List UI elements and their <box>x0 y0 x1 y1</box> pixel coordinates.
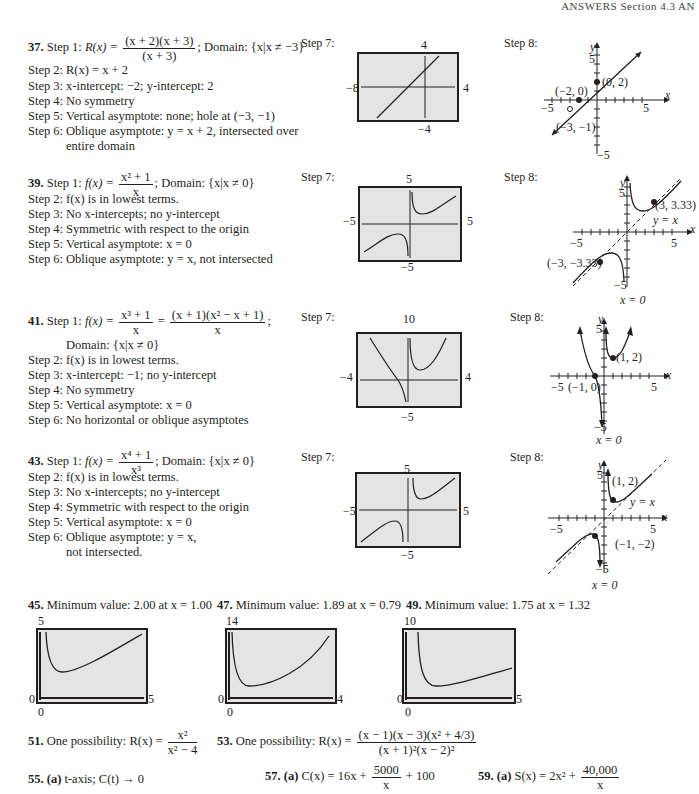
step-line: Step 6:Oblique asymptote: y = x, not int… <box>28 252 273 267</box>
fraction: (x + 2)(x + 3)(x + 3) <box>123 34 195 63</box>
step-line: Step 5:Vertical asymptote: x = 0 <box>28 515 192 530</box>
window-ymax: 5 <box>406 172 412 187</box>
equation-lhs: f(x) = <box>85 176 114 190</box>
window-xmin: 0 <box>218 692 224 707</box>
calculator-graph <box>357 52 459 122</box>
calculator-graph <box>36 628 148 704</box>
step-line: Step 4:No symmetry <box>28 383 134 398</box>
problem-number: 37. <box>28 40 44 54</box>
step-line: Step 2:f(x) is in lowest terms. <box>28 353 179 368</box>
y-tick-label: −5 <box>597 148 610 163</box>
window-ymax: 14 <box>226 614 238 629</box>
step-label: Step 1: <box>47 176 82 190</box>
asymptote-label: x = 0 <box>596 433 621 448</box>
fraction: x³ + 1x <box>119 308 153 337</box>
graph-plot <box>227 630 335 702</box>
window-ymin: 0 <box>227 705 233 720</box>
domain-text: ; Domain: {x|x ≠ −3} <box>197 40 304 54</box>
window-ymin: −5 <box>401 260 414 275</box>
y-tick-label: 5 <box>596 322 602 337</box>
graph-plot <box>404 630 514 702</box>
step-line: Step 4:Symmetric with respect to the ori… <box>28 222 249 237</box>
step-line: Step 6:Oblique asymptote: y = x, <box>28 530 196 545</box>
window-xmax: 5 <box>516 692 522 707</box>
point-label: (1, 2) <box>616 350 642 365</box>
window-ymax: 4 <box>421 38 427 53</box>
step-line: Step 4:No symmetry <box>28 94 134 109</box>
point-label: (−3, −3.33) <box>547 256 602 271</box>
asymptote-label: x = 0 <box>620 293 645 308</box>
x-tick-label: −5 <box>550 522 563 537</box>
step-line: not intersected. <box>66 545 142 560</box>
x-tick-label: 5 <box>671 236 677 251</box>
x-axis-label: x <box>666 368 671 383</box>
equation-lhs: R(x) = <box>85 40 118 54</box>
window-xmin: −5 <box>343 214 356 229</box>
window-ymin: −5 <box>401 410 414 425</box>
fraction: (x − 1)(x − 3)(x² + 4/3)(x + 1)²(x − 2)² <box>357 728 477 757</box>
problem-59: 59. (a) S(x) = 2x² + 40,000x <box>478 763 621 792</box>
x-tick-label: 5 <box>650 522 656 537</box>
x-tick-label: 5 <box>651 380 657 395</box>
fraction-factored: (x + 1)(x² − x + 1)x <box>170 308 266 337</box>
problem-number: 43. <box>28 454 44 468</box>
step7-label: Step 7: <box>301 36 335 51</box>
x-axis-label: x <box>662 510 667 525</box>
problem-47: 47. Minimum value: 1.89 at x = 0.79 <box>217 598 401 613</box>
x-tick-label: −5 <box>570 236 583 251</box>
sketch-graph-37 <box>540 42 670 162</box>
window-xmax: 5 <box>148 692 154 707</box>
problem-57: 57. (a) C(x) = 16x + 5000x + 100 <box>265 763 435 792</box>
window-xmax: 5 <box>467 214 473 229</box>
step-line: Step 6:No horizontal or oblique asymptot… <box>28 413 249 428</box>
step-line: Step 5:Vertical asymptote: x = 0 <box>28 398 192 413</box>
problem-51: 51. One possibility: R(x) = x²x² − 4 <box>28 728 199 757</box>
x-tick-label: −5 <box>541 101 554 116</box>
window-ymin: −5 <box>401 548 414 563</box>
calculator-graph <box>356 332 462 408</box>
window-xmin: −5 <box>343 504 356 519</box>
y-tick-label: 5 <box>597 468 603 483</box>
point-label: (−2, 0) <box>555 84 588 99</box>
problem-55: 55. (a) t-axis; C(t) → 0 <box>28 772 144 787</box>
window-xmax: 4 <box>463 81 469 96</box>
step8-label: Step 8: <box>504 170 538 185</box>
window-xmax: 5 <box>463 504 469 519</box>
point-label: (−1, −2) <box>615 537 655 552</box>
domain-text: ; Domain: {x|x ≠ 0} <box>155 176 255 190</box>
window-ymin: 0 <box>38 705 44 720</box>
problem-49: 49. Minimum value: 1.75 at x = 1.32 <box>406 598 590 613</box>
running-header: ANSWERS Section 4.3 AN <box>561 0 695 12</box>
y-tick-label: −5 <box>596 562 609 577</box>
window-ymax: 5 <box>38 614 44 629</box>
problem-53: 53. One possibility: R(x) = (x − 1)(x − … <box>217 728 478 757</box>
step-line: Step 2:f(x) is in lowest terms. <box>28 470 179 485</box>
step7-label: Step 7: <box>301 170 335 185</box>
step-line: Step 5:Vertical asymptote: x = 0 <box>28 237 192 252</box>
window-ymin: 0 <box>405 705 411 720</box>
asymptote-label: x = 0 <box>592 578 617 593</box>
step-label: Step 1: <box>47 40 82 54</box>
window-ymin: −4 <box>418 122 431 137</box>
x-tick-label: 5 <box>643 101 649 116</box>
problem-number: 39. <box>28 176 44 190</box>
point-label: (−3, −1) <box>556 120 596 135</box>
step-line: Step 4:Symmetric with respect to the ori… <box>28 500 249 515</box>
step-line: Step 3:No x-intercepts; no y-intercept <box>28 485 220 500</box>
calculator-graph <box>402 628 516 704</box>
step8-label: Step 8: <box>504 36 538 51</box>
step-line: Step 3:x-intercept: −1; no y-intercept <box>28 368 216 383</box>
step7-label: Step 7: <box>301 450 335 465</box>
step-line: Step 2:f(x) is in lowest terms. <box>28 192 179 207</box>
step-line: entire domain <box>66 139 135 154</box>
step-line: Step 6:Oblique asymptote: y = x + 2, int… <box>28 124 298 139</box>
y-tick-label: 5 <box>589 52 595 67</box>
graph-plot <box>357 474 459 546</box>
problem-number: 41. <box>28 314 44 328</box>
step7-label: Step 7: <box>301 310 335 325</box>
step-label: Step 1: <box>47 314 82 328</box>
asymptote-label: y = x <box>630 495 655 510</box>
graph-plot <box>359 54 457 120</box>
window-ymax: 10 <box>404 614 416 629</box>
problem-45: 45. Minimum value: 2.00 at x = 1.00 <box>28 598 212 613</box>
